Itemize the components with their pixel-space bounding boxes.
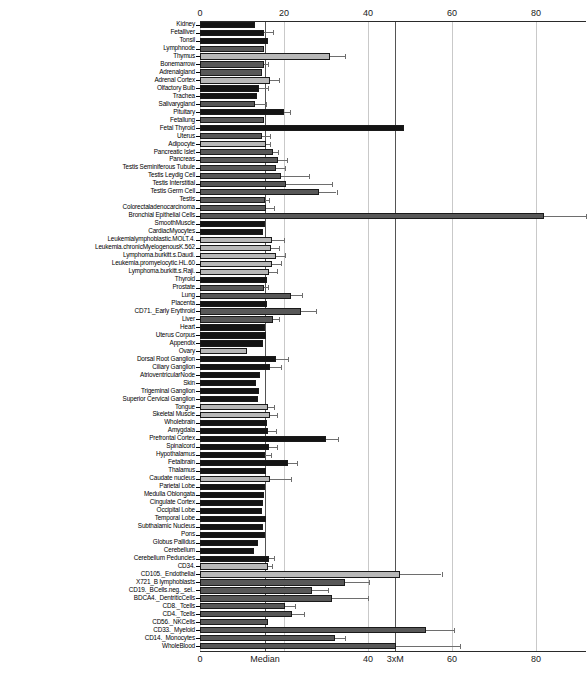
category-label: Liver [5,315,195,323]
error-bar [255,104,266,105]
error-bar-cap [274,206,275,211]
bar [200,508,262,514]
category-label: Thalamus [5,466,195,474]
category-label: Testis Leydig Cell [5,171,195,179]
category-label: Fetallung [5,116,195,124]
category-label: CD19._BCells.neg._sel.. [5,586,195,594]
bar [200,269,269,275]
error-bar [269,272,277,273]
bar [200,356,276,362]
bar [200,348,247,354]
error-bar [291,295,302,296]
bar [200,261,272,267]
error-bar-cap [278,150,279,155]
error-bar-cap [277,413,278,418]
category-label: Pancreatic Islet [5,148,195,156]
bar [200,189,319,195]
error-bar [276,256,285,257]
error-bar [345,582,369,583]
bar [200,53,330,59]
category-label: AtrioventricularNode [5,371,195,379]
category-label: Occipital Lobe [5,506,195,514]
bar [200,492,264,498]
error-bar [269,447,277,448]
bar [200,563,268,569]
category-label: CD14._Monocytes [5,634,195,642]
category-label: CD33._Myeloid [5,626,195,634]
category-label: Cingulate Cortex [5,498,195,506]
error-bar [272,264,281,265]
error-bar [270,80,279,81]
error-bar-cap [273,30,274,35]
error-bar [319,192,336,193]
bar [200,627,426,633]
axis-tick-label: 60 [447,652,457,666]
error-bar [396,646,461,647]
category-label: Heart [5,323,195,331]
bar [200,77,270,83]
category-label: CD105._Endothelial [5,570,195,578]
category-label: Bronchial Epithelial Cells [5,211,195,219]
category-label: Olfactory Bulb [5,84,195,92]
error-bar-cap [290,110,291,115]
error-bar [284,112,291,113]
category-label: Adrenalgland [5,68,195,76]
error-bar-cap [302,293,303,298]
error-bar-cap [269,198,270,203]
error-bar-cap [368,596,369,601]
bar [200,388,259,394]
error-bar-cap [297,461,298,466]
category-label: Tonsil [5,36,195,44]
error-bar-cap [295,604,296,609]
category-label: Salivarygland [5,100,195,108]
axis-tick-label: 80 [531,652,541,666]
bar [200,532,265,538]
error-bar-cap [266,102,267,107]
category-label: Lymphoma.burkitt.s.Raji. [5,267,195,275]
bar [200,380,256,386]
error-bar-cap [284,238,285,243]
bar [200,308,301,314]
error-bar-cap [288,357,289,362]
error-bar-cap [287,158,288,163]
error-bar [288,463,298,464]
category-label: Uterus [5,132,195,140]
bar [200,524,263,530]
bar [200,595,332,601]
error-bar [276,168,285,169]
category-label: CD4._Tcells [5,610,195,618]
bar [200,173,281,179]
category-label: Superior Cervical Ganglion [5,395,195,403]
bar [200,332,266,338]
bar [200,221,265,227]
category-label: Lymphoma.burkitt.s.Daudi. [5,251,195,259]
category-label: Parietal Lobe [5,482,195,490]
error-bar-cap [268,62,269,67]
bar [200,516,266,522]
bar [200,109,284,115]
bar [200,30,264,36]
error-bar-cap [328,588,329,593]
bar [200,277,267,283]
error-bar-cap [338,437,339,442]
error-bar [285,606,295,607]
category-label: Prostate [5,283,195,291]
axis-bottom-ticks: 0Median403xM6080 [0,652,586,666]
bar [200,404,268,410]
error-bar-cap [454,628,455,633]
bar [200,245,271,251]
error-bar [286,184,332,185]
error-bar [301,311,317,312]
error-bar-cap [369,580,370,585]
category-label: Testis Seminiferous Tubule [5,163,195,171]
bar [200,428,268,434]
category-label: Amygdala [5,426,195,434]
bar [200,468,266,474]
error-bar [281,176,309,177]
error-bar [259,88,268,89]
error-bar-cap [337,190,338,195]
bar-row: WholeBlood [0,643,586,651]
category-label: Medulla Oblongata [5,490,195,498]
category-label: Trigeminal Ganglion [5,387,195,395]
category-label: Prefrontal Cortex [5,434,195,442]
